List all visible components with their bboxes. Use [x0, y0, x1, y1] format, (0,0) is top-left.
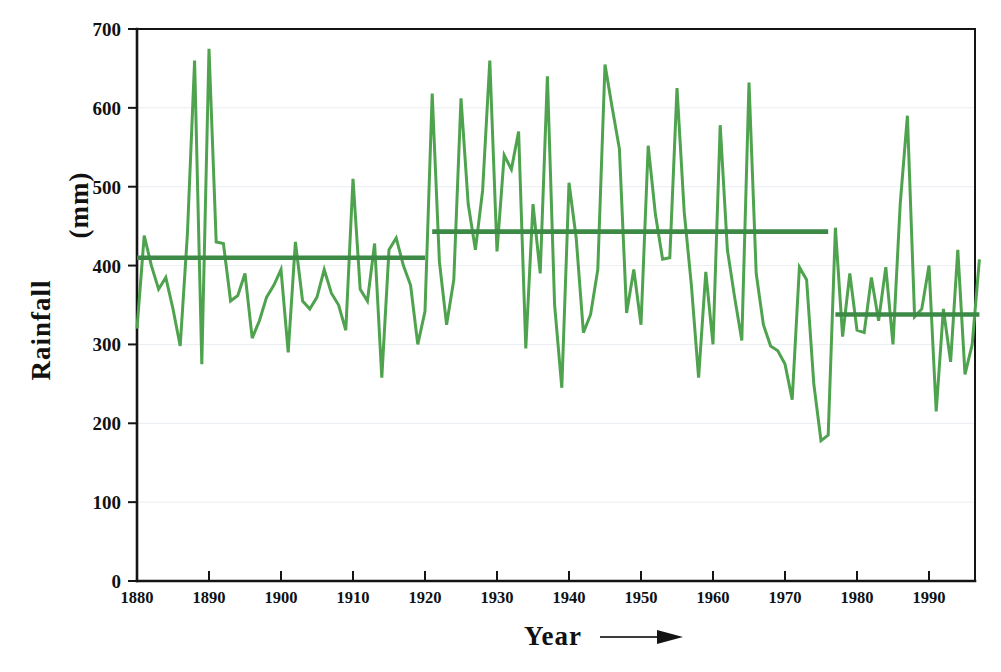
y-axis-ticks — [128, 29, 137, 581]
y-axis-title-rainfall: Rainfall — [26, 279, 56, 380]
x-axis-tick-labels: 1880189019001910192019301940195019601970… — [121, 588, 946, 607]
chart-svg: 0100200300400500600700 18801890190019101… — [0, 0, 1001, 672]
y-axis-tick-labels: 0100200300400500600700 — [93, 19, 122, 592]
x-tick-label-1890: 1890 — [193, 588, 226, 607]
x-tick-label-1940: 1940 — [553, 588, 586, 607]
x-tick-label-1880: 1880 — [121, 588, 154, 607]
y-tick-label-600: 600 — [93, 98, 122, 119]
x-tick-label-1970: 1970 — [769, 588, 802, 607]
y-tick-label-300: 300 — [93, 334, 122, 355]
right-arrow-icon — [657, 630, 683, 644]
x-tick-label-1930: 1930 — [481, 588, 514, 607]
x-tick-label-1900: 1900 — [265, 588, 298, 607]
x-tick-label-1950: 1950 — [625, 588, 658, 607]
x-tick-label-1980: 1980 — [841, 588, 874, 607]
y-tick-label-500: 500 — [93, 177, 122, 198]
x-tick-label-1920: 1920 — [409, 588, 442, 607]
gridlines — [137, 29, 975, 502]
y-tick-label-700: 700 — [93, 19, 122, 40]
y-axis-title-units: (mm) — [64, 172, 94, 239]
y-tick-label-400: 400 — [93, 256, 122, 277]
x-tick-label-1910: 1910 — [337, 588, 370, 607]
x-axis-ticks — [137, 571, 929, 581]
y-tick-label-100: 100 — [93, 492, 122, 513]
x-tick-label-1990: 1990 — [913, 588, 946, 607]
x-tick-label-1960: 1960 — [697, 588, 730, 607]
x-axis-title-year: Year — [524, 621, 582, 651]
rainfall-chart-figure: 0100200300400500600700 18801890190019101… — [0, 0, 1001, 672]
y-tick-label-200: 200 — [93, 413, 122, 434]
